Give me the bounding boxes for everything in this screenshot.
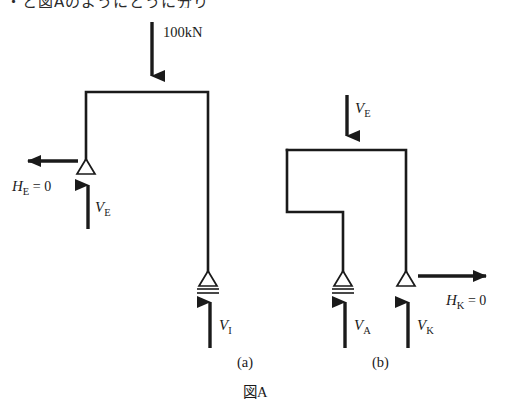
reaction-hk-label: HK = 0 (445, 292, 486, 311)
reaction-va-subscript: A (363, 325, 371, 336)
load-ve-b-subscript: E (364, 108, 370, 119)
reaction-hk: HK = 0 (418, 276, 486, 311)
reaction-vi-subscript: I (228, 325, 232, 336)
panel-b: VE VA VK (287, 95, 486, 371)
reaction-ve-a-subscript: E (104, 207, 110, 218)
reaction-va-label: VA (354, 317, 371, 336)
load-ve-b-label: VE (355, 100, 371, 119)
frame-a-member (86, 92, 208, 272)
support-roller-i (197, 271, 219, 293)
reaction-vk-label: VK (417, 317, 434, 336)
reaction-he-label: HE = 0 (11, 178, 51, 197)
figure-a-diagram: 100kN HE = 0 VE (0, 0, 522, 413)
reaction-he-equals: = 0 (29, 179, 51, 194)
reaction-vk-subscript: K (426, 325, 434, 336)
frame-b-left-member (287, 150, 343, 272)
figure-caption: 図A (243, 384, 268, 400)
reaction-ve-a: VE (88, 185, 111, 229)
support-pin-e (77, 159, 95, 174)
support-roller-a (332, 271, 354, 293)
figure-page: ・と図Aのようにとうに分り 100kN (0, 0, 522, 413)
load-100kn-label: 100kN (163, 24, 203, 40)
panel-a: 100kN HE = 0 VE (11, 22, 253, 371)
load-100kn: 100kN (152, 22, 203, 76)
reaction-he: HE = 0 (11, 161, 78, 197)
reaction-vk: VK (408, 302, 434, 348)
reaction-hk-equals: = 0 (464, 293, 486, 308)
load-ve-b: VE (347, 95, 371, 136)
reaction-vi-label: VI (219, 317, 232, 336)
reaction-va: VA (345, 302, 371, 348)
reaction-vi: VI (210, 302, 232, 348)
reaction-ve-a-label: VE (95, 199, 111, 218)
support-pin-k (397, 271, 415, 286)
panel-a-sublabel: (a) (237, 354, 253, 371)
panel-b-sublabel: (b) (372, 354, 389, 371)
